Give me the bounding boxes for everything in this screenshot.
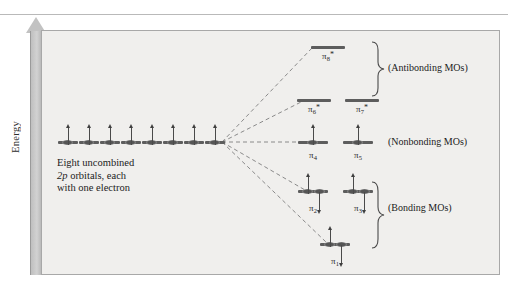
electron-arrowhead-up-icon <box>356 124 360 128</box>
figure-root: Energy <box>0 0 508 290</box>
electron-arrow-up <box>358 126 359 145</box>
mo-label-pi2: π2 <box>298 203 328 214</box>
electron-arrowhead-up-icon <box>311 124 315 128</box>
electron-arrow-up <box>173 126 174 145</box>
electron-arrowhead-up-icon <box>150 124 154 128</box>
pi-subscript: 2 <box>314 207 317 214</box>
mo-label-pi1: π1 <box>320 256 350 267</box>
electron-arrowhead-up-icon <box>87 124 91 128</box>
mo-label-pi4: π4 <box>298 150 328 161</box>
electron-arrow-up <box>353 175 354 194</box>
electron-arrow-up <box>110 126 111 145</box>
pi-subscript: 4 <box>314 154 317 161</box>
electron-arrow-up <box>215 126 216 145</box>
caption-line-3: with one electron <box>57 182 134 195</box>
electron-arrowhead-up-icon <box>328 226 332 230</box>
electron-arrow-up <box>194 126 195 145</box>
caption-line-1: Eight uncombined <box>57 157 134 170</box>
orbital-bar <box>311 46 345 49</box>
caption-line-2: 2p orbitals, each <box>57 170 134 183</box>
group-label-bonding: (Bonding MOs) <box>388 202 452 213</box>
pi-star: * <box>364 103 368 112</box>
electron-arrow-up <box>330 228 331 247</box>
electron-arrow-up <box>308 175 309 194</box>
electron-arrow-up <box>313 126 314 145</box>
caption-line-2-rest: orbitals, each <box>68 170 127 181</box>
electron-arrowhead-up-icon <box>129 124 133 128</box>
caption-2p-italic: 2p <box>57 170 68 181</box>
mo-label-pi8: π8* <box>311 50 345 62</box>
pi-star: * <box>330 50 334 59</box>
mo-label-pi7: π7* <box>345 103 379 115</box>
electron-arrowhead-up-icon <box>306 173 310 177</box>
group-label-antibonding: (Antibonding MOs) <box>388 62 468 73</box>
mo-label-pi5: π5 <box>343 150 373 161</box>
orbital-bar <box>345 99 379 102</box>
pi-subscript: 1 <box>336 260 339 267</box>
pi-subscript: 5 <box>359 154 362 161</box>
electron-arrowhead-up-icon <box>66 124 70 128</box>
electron-arrowhead-up-icon <box>108 124 112 128</box>
orbital-bar <box>297 99 331 102</box>
electron-arrowhead-up-icon <box>213 124 217 128</box>
group-label-nonbonding: (Nonbonding MOs) <box>388 136 467 147</box>
mo-label-pi3: π3 <box>343 203 373 214</box>
atomic-orbital-caption: Eight uncombined 2p orbitals, each with … <box>57 157 134 195</box>
pi-star: * <box>316 103 320 112</box>
electron-arrowhead-up-icon <box>192 124 196 128</box>
mo-label-pi6: π6* <box>297 103 331 115</box>
electron-arrow-up <box>152 126 153 145</box>
electron-arrow-up <box>89 126 90 145</box>
top-divider-rule <box>0 14 508 15</box>
electron-arrow-up <box>131 126 132 145</box>
electron-arrow-up <box>68 126 69 145</box>
electron-arrowhead-up-icon <box>171 124 175 128</box>
electron-arrowhead-up-icon <box>351 173 355 177</box>
pi-subscript: 3 <box>359 207 362 214</box>
